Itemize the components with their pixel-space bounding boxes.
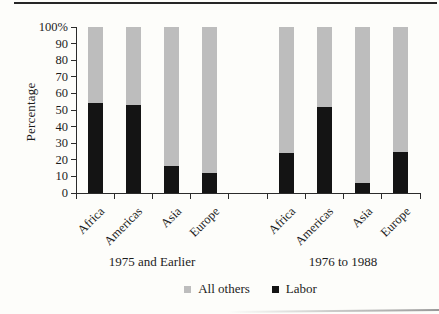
y-tick-label: 30 xyxy=(24,136,68,150)
y-axis-line xyxy=(76,27,77,194)
bar-all-others-americas-group1 xyxy=(126,27,141,105)
legend-item-labor: Labor xyxy=(272,281,317,297)
y-tick xyxy=(71,159,76,160)
labor-swatch-icon xyxy=(272,286,279,293)
bar-labor-europe-group1 xyxy=(202,173,217,193)
y-tick-label: 90 xyxy=(24,37,68,51)
figure: Percentage 0102030405060708090100%Africa… xyxy=(0,0,439,314)
y-tick-label: 70 xyxy=(24,70,68,84)
top-rule xyxy=(14,2,437,4)
y-tick-label: 80 xyxy=(24,53,68,67)
bar-labor-americas-group2 xyxy=(317,107,332,193)
x-tick xyxy=(114,194,115,199)
y-tick xyxy=(71,126,76,127)
bar-labor-asia-group2 xyxy=(355,183,370,193)
category-label-europe-group2: Europe xyxy=(333,205,413,285)
y-tick xyxy=(71,176,76,177)
x-tick xyxy=(190,194,191,199)
y-tick-label: 40 xyxy=(24,120,68,134)
y-tick xyxy=(71,43,76,44)
bar-labor-africa-group2 xyxy=(279,153,294,193)
y-tick xyxy=(71,60,76,61)
bar-labor-africa-group1 xyxy=(88,103,103,193)
bar-all-others-americas-group2 xyxy=(317,27,332,107)
y-tick xyxy=(71,110,76,111)
x-tick xyxy=(381,194,382,199)
legend: All others Labor xyxy=(0,281,439,297)
x-tick xyxy=(343,194,344,199)
bar-all-others-europe-group2 xyxy=(393,27,408,152)
plot-area: 0102030405060708090100%AfricaAmericasAsi… xyxy=(76,27,420,193)
x-axis-line xyxy=(76,193,421,194)
y-tick-label: 20 xyxy=(24,153,68,167)
legend-item-all-others: All others xyxy=(184,281,250,297)
x-tick xyxy=(267,194,268,199)
y-tick xyxy=(71,93,76,94)
x-tick xyxy=(228,194,229,199)
y-tick xyxy=(71,76,76,77)
y-tick-label: 100% xyxy=(24,20,68,34)
bar-all-others-europe-group1 xyxy=(202,27,217,173)
category-label-europe-group1: Europe xyxy=(142,205,222,285)
page-edge-line xyxy=(228,309,439,313)
bar-labor-americas-group1 xyxy=(126,105,141,193)
y-tick-label: 50 xyxy=(24,103,68,117)
x-tick xyxy=(305,194,306,199)
y-tick xyxy=(71,143,76,144)
y-tick xyxy=(71,27,76,28)
x-tick xyxy=(152,194,153,199)
group-label-1975-and-earlier: 1975 and Earlier xyxy=(75,254,229,270)
bar-all-others-asia-group1 xyxy=(164,27,179,166)
group-label-1976-to-1988: 1976 to 1988 xyxy=(266,254,420,270)
y-tick-label: 10 xyxy=(24,169,68,183)
y-tick-label: 60 xyxy=(24,86,68,100)
bar-all-others-africa-group2 xyxy=(279,27,294,153)
all-others-swatch-icon xyxy=(184,286,191,293)
bar-all-others-africa-group1 xyxy=(88,27,103,103)
legend-label-all-others: All others xyxy=(198,281,250,297)
x-tick xyxy=(76,194,77,199)
bar-labor-europe-group2 xyxy=(393,152,408,194)
y-tick-label: 0 xyxy=(24,186,68,200)
legend-label-labor: Labor xyxy=(286,281,317,297)
bar-labor-asia-group1 xyxy=(164,166,179,193)
bar-all-others-asia-group2 xyxy=(355,27,370,183)
x-tick xyxy=(420,194,421,199)
